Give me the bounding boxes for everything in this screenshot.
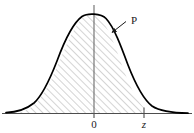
- z-label: z: [141, 118, 147, 130]
- probability-label: P: [131, 14, 137, 26]
- normal-distribution-diagram: P 0 z: [0, 0, 194, 133]
- normal-curve-figure: P 0 z: [0, 0, 194, 133]
- probability-pointer-arrow: [112, 22, 126, 33]
- origin-label: 0: [91, 118, 97, 130]
